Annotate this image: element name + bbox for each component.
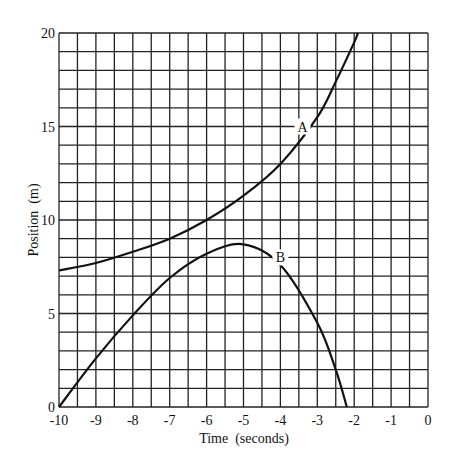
curve-label-a: A [297, 120, 308, 135]
y-axis-ticks: 05101520 [41, 26, 55, 415]
curve-a [59, 33, 358, 270]
x-axis-label: Time (seconds) [199, 431, 289, 447]
y-tick-label: 0 [48, 400, 55, 415]
curve-labels: AB [272, 119, 310, 266]
x-tick-label: -6 [201, 413, 213, 428]
x-tick-label: -8 [127, 413, 139, 428]
x-tick-label: -7 [164, 413, 176, 428]
y-tick-label: 20 [41, 26, 55, 41]
x-tick-label: -3 [311, 413, 323, 428]
x-tick-label: -10 [50, 413, 69, 428]
y-axis-label: Position (m) [26, 183, 42, 256]
x-tick-label: -4 [275, 413, 287, 428]
x-tick-label: 0 [425, 413, 432, 428]
x-tick-label: -9 [90, 413, 102, 428]
grid-lines [59, 33, 428, 407]
position-time-chart: AB -10-9-8-7-6-5-4-3-2-10 05101520 Time … [0, 0, 454, 469]
curve-b [59, 244, 347, 407]
y-tick-label: 5 [48, 307, 55, 322]
x-tick-label: -2 [348, 413, 360, 428]
y-tick-label: 10 [41, 213, 55, 228]
x-axis-ticks: -10-9-8-7-6-5-4-3-2-10 [50, 413, 432, 428]
curve-label-b: B [276, 250, 285, 265]
x-tick-label: -5 [238, 413, 250, 428]
y-tick-label: 15 [41, 120, 55, 135]
x-tick-label: -1 [385, 413, 397, 428]
